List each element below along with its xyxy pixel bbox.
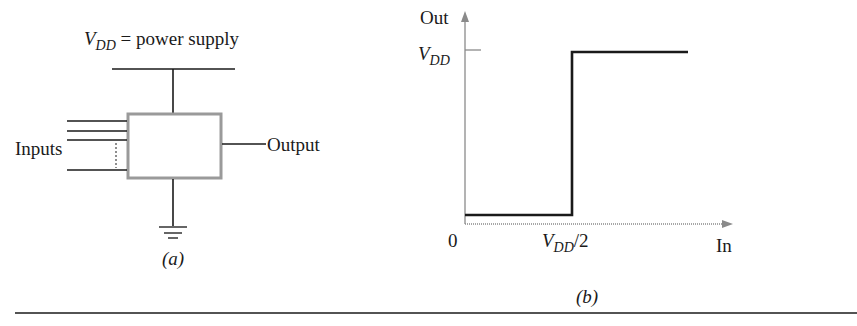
y-tick-label-vdd: VDD: [418, 44, 450, 63]
transfer-curve: [465, 52, 688, 215]
supply-label-sub: DD: [96, 38, 116, 53]
logic-block: [128, 114, 221, 178]
x-tick-label-vdd-half: VDD/2: [542, 231, 589, 250]
logic-gate-block-diagram: [67, 69, 266, 238]
output-label: Output: [267, 135, 320, 154]
x-axis-arrow-icon: [722, 220, 733, 228]
supply-label: VDD = power supply: [84, 29, 239, 48]
inputs-label: Inputs: [15, 139, 63, 158]
supply-label-v: V: [84, 28, 96, 49]
transfer-characteristic-plot: [461, 11, 733, 228]
y-axis-arrow-icon: [461, 11, 469, 22]
ground-icon: [159, 227, 187, 238]
caption-b: (b): [576, 287, 598, 306]
x-axis-label: In: [716, 236, 732, 255]
caption-a: (a): [162, 249, 184, 268]
supply-label-text: = power supply: [116, 28, 239, 49]
origin-label: 0: [448, 231, 458, 250]
y-axis-label: Out: [420, 8, 449, 27]
